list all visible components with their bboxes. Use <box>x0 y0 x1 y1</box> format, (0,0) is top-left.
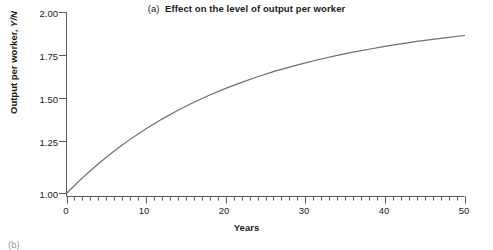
x-axis <box>67 197 466 204</box>
x-axis-minor-ticks <box>75 197 458 201</box>
output-per-worker-curve <box>67 35 465 193</box>
next-panel-tag-partial: (b) <box>8 239 22 250</box>
figure-panel-a: (a) Effect on the level of output per wo… <box>0 0 493 250</box>
y-axis <box>59 13 67 197</box>
plot-area <box>0 0 493 250</box>
